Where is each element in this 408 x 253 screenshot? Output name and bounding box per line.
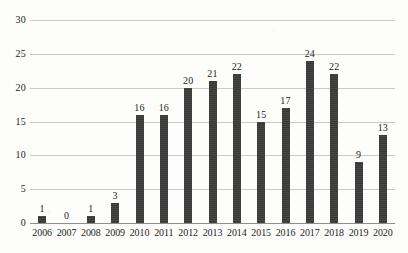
y-axis: 051015202530 — [0, 20, 26, 223]
bar-value-label: 16 — [134, 103, 144, 113]
bar — [160, 115, 168, 223]
bar — [209, 81, 217, 223]
bar — [136, 115, 144, 223]
bar-chart: 051015202530 1013161620212215172422913 2… — [0, 0, 408, 253]
x-tick-label: 2012 — [178, 228, 198, 238]
bar — [38, 216, 46, 223]
x-tick-label: 2006 — [32, 228, 52, 238]
y-tick-label: 20 — [4, 83, 26, 93]
y-tick-label: 0 — [4, 218, 26, 228]
x-tick-label: 2020 — [373, 228, 393, 238]
bar-value-label: 1 — [88, 204, 93, 214]
bar-value-label: 1 — [40, 204, 45, 214]
y-tick-label: 30 — [4, 15, 26, 25]
x-tick-label: 2009 — [105, 228, 125, 238]
bar — [184, 88, 192, 223]
bar-value-label: 21 — [207, 69, 217, 79]
x-axis: 2006200720082009201020112012201320142015… — [30, 228, 395, 244]
y-tick-label: 10 — [4, 150, 26, 160]
bar — [306, 61, 314, 223]
x-tick-label: 2011 — [154, 228, 173, 238]
y-tick-label: 25 — [4, 49, 26, 59]
bar-value-label: 17 — [280, 96, 290, 106]
bar — [87, 216, 95, 223]
x-tick-label: 2016 — [276, 228, 296, 238]
bar — [233, 74, 241, 223]
x-tick-label: 2008 — [81, 228, 101, 238]
bar — [282, 108, 290, 223]
bar — [257, 122, 265, 224]
x-tick-label: 2013 — [203, 228, 223, 238]
bar-value-label: 20 — [183, 76, 193, 86]
bar — [330, 74, 338, 223]
x-tick-label: 2007 — [57, 228, 77, 238]
y-tick-label: 15 — [4, 117, 26, 127]
gridline — [30, 54, 395, 55]
bar-value-label: 0 — [64, 211, 69, 221]
bar-value-label: 22 — [329, 62, 339, 72]
bar-value-label: 9 — [356, 150, 361, 160]
x-tick-label: 2010 — [130, 228, 150, 238]
x-tick-label: 2019 — [349, 228, 369, 238]
bar-value-label: 24 — [305, 49, 315, 59]
x-tick-label: 2014 — [227, 228, 247, 238]
bar-value-label: 3 — [113, 191, 118, 201]
bar — [355, 162, 363, 223]
x-tick-label: 2017 — [300, 228, 320, 238]
y-tick-label: 5 — [4, 184, 26, 194]
bar-value-label: 15 — [256, 110, 266, 120]
plot-area: 1013161620212215172422913 — [30, 20, 395, 223]
axis-baseline — [30, 223, 395, 224]
bar — [379, 135, 387, 223]
bar-value-label: 13 — [378, 123, 388, 133]
bar-value-label: 16 — [159, 103, 169, 113]
bar — [111, 203, 119, 223]
x-tick-label: 2015 — [251, 228, 271, 238]
bar-value-label: 22 — [232, 62, 242, 72]
gridline — [30, 20, 395, 21]
x-tick-label: 2018 — [324, 228, 344, 238]
